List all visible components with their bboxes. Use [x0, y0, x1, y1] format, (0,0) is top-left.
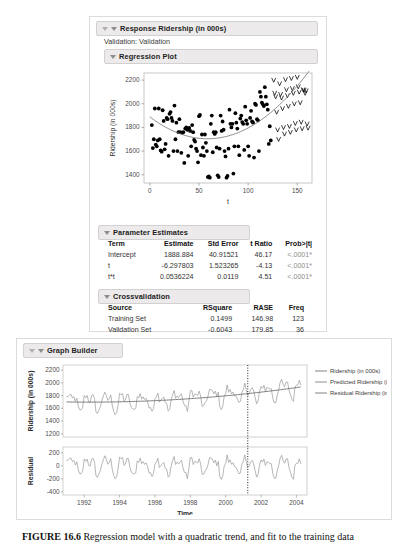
graph-builder-label: Graph Builder — [47, 346, 98, 355]
table-cell: t — [106, 261, 147, 272]
svg-text:Residual Ridership (in 000s): Residual Ridership (in 000s) — [330, 390, 387, 396]
table-cell: 0.0119 — [196, 271, 241, 282]
graph-builder-svg: 120014001600180020002200-400-20002001992… — [21, 359, 387, 515]
parameter-estimates-label: Parameter Estimates — [113, 228, 188, 237]
table-cell: <.0001* — [274, 261, 314, 272]
svg-text:1994: 1994 — [112, 499, 127, 506]
disclosure-triangle-crossvalidation-icon[interactable] — [104, 295, 110, 299]
table-cell: t*t — [106, 271, 147, 282]
svg-text:Time: Time — [177, 510, 193, 515]
svg-text:1996: 1996 — [148, 499, 163, 506]
table-cell: 146.98 — [234, 314, 275, 325]
svg-text:2000: 2000 — [45, 379, 60, 386]
table-header-row: SourceRSquareRASEFreq — [106, 303, 306, 314]
response-section-header[interactable]: Response Ridership (in 000s) — [96, 21, 318, 36]
table-cell: 46.17 — [241, 250, 275, 261]
disclosure-triangle-parameter-estimates-icon[interactable] — [104, 231, 110, 235]
column-header: RSquare — [181, 303, 234, 314]
table-cell: <.0001* — [274, 271, 314, 282]
svg-text:50: 50 — [195, 187, 203, 194]
svg-text:Ridership (in 000s): Ridership (in 000s) — [330, 368, 380, 374]
table-body: Intercept1888.88440.9152146.17<.0001*t-6… — [106, 250, 314, 282]
graph-builder-header[interactable]: Graph Builder — [23, 343, 123, 358]
svg-text:-400: -400 — [47, 488, 60, 495]
crossvalidation-label: Crossvalidation — [113, 292, 170, 301]
table-cell: 0.0536224 — [147, 271, 196, 282]
table-cell: Validation Set — [106, 325, 181, 336]
svg-text:1400: 1400 — [45, 417, 60, 424]
validation-line: Validation: Validation — [104, 37, 170, 46]
gb-series-lines — [67, 365, 301, 495]
disclosure-triangle-regression-plot-icon[interactable] — [110, 55, 116, 59]
table-cell: 179.85 — [234, 325, 275, 336]
parameter-estimates-table: TermEstimateStd Errort RatioProb>|t| Int… — [106, 239, 314, 282]
column-header: Estimate — [147, 239, 196, 250]
table-cell: 1.523265 — [196, 261, 241, 272]
svg-text:1800: 1800 — [45, 392, 60, 399]
svg-text:Predicted Ridership (in 000s): Predicted Ridership (in 000s) — [330, 379, 387, 385]
table-cell: 1888.884 — [147, 250, 196, 261]
disclosure-triangle-response-icon[interactable] — [111, 27, 117, 31]
svg-text:Ridership (in 000s): Ridership (in 000s) — [27, 371, 35, 432]
table-row: Validation Set-0.6043179.8536 — [106, 325, 306, 336]
figure-number: FIGURE 16.6 — [22, 531, 81, 542]
table-row: t*t0.05362240.01194.51<.0001* — [106, 271, 314, 282]
svg-text:1200: 1200 — [45, 430, 60, 437]
parameter-estimates-header[interactable]: Parameter Estimates — [98, 225, 250, 240]
svg-text:Ridership (in 000s): Ridership (in 000s) — [109, 99, 117, 156]
svg-text:2200: 2200 — [45, 366, 60, 373]
regression-plot-label: Regression Plot — [119, 52, 177, 61]
table-row: Training Set0.1499146.98123 — [106, 314, 306, 325]
svg-text:1600: 1600 — [45, 404, 60, 411]
table-row: Intercept1888.88440.9152146.17<.0001* — [106, 250, 314, 261]
svg-text:1998: 1998 — [183, 499, 198, 506]
column-header: t Ratio — [241, 239, 275, 250]
svg-text:2200: 2200 — [125, 76, 140, 83]
svg-text:2000: 2000 — [125, 100, 140, 107]
regression-report-panel: Response Ridership (in 000s) Validation:… — [89, 16, 327, 332]
svg-text:2002: 2002 — [254, 499, 269, 506]
table-body: Training Set0.1499146.98123Validation Se… — [106, 314, 306, 336]
column-header: Freq — [275, 303, 306, 314]
column-header: Term — [106, 239, 147, 250]
table-cell: 40.91521 — [196, 250, 241, 261]
disclosure-triangle-outer-gb-icon[interactable] — [29, 349, 35, 353]
table-cell: -6.297803 — [147, 261, 196, 272]
graph-builder-panel: Graph Builder 120014001600180020002200-4… — [16, 338, 392, 520]
table-cell: -0.6043 — [181, 325, 234, 336]
table-cell: -4.13 — [241, 261, 275, 272]
table-cell: 4.51 — [241, 271, 275, 282]
table-cell: 0.1499 — [181, 314, 234, 325]
disclosure-triangle-outer-icon[interactable] — [102, 27, 108, 31]
scatter-svg: 14001600180020002200050100150tRidership … — [104, 63, 318, 223]
svg-text:1992: 1992 — [77, 499, 92, 506]
table-cell: <.0001* — [274, 250, 314, 261]
svg-text:t: t — [227, 198, 229, 205]
table-cell: Intercept — [106, 250, 147, 261]
column-header: Std Error — [196, 239, 241, 250]
svg-text:1600: 1600 — [125, 147, 140, 154]
svg-text:2004: 2004 — [289, 499, 304, 506]
graph-builder-plot: 120014001600180020002200-400-20002001992… — [21, 359, 387, 515]
crossvalidation-header[interactable]: Crossvalidation — [98, 289, 250, 304]
regression-plot-header[interactable]: Regression Plot — [104, 49, 318, 64]
column-header: Source — [106, 303, 181, 314]
svg-text:-200: -200 — [47, 475, 60, 482]
svg-text:0: 0 — [148, 187, 152, 194]
table-cell: Training Set — [106, 314, 181, 325]
column-header: RASE — [234, 303, 275, 314]
svg-text:Residual: Residual — [27, 457, 34, 485]
crossvalidation-table: SourceRSquareRASEFreq Training Set0.1499… — [106, 303, 306, 335]
svg-text:200: 200 — [49, 449, 60, 456]
response-header-label: Response Ridership (in 000s) — [120, 24, 226, 33]
svg-text:2000: 2000 — [219, 499, 234, 506]
svg-text:0: 0 — [56, 462, 60, 469]
svg-text:150: 150 — [292, 187, 303, 194]
disclosure-triangle-graph-builder-icon[interactable] — [38, 349, 44, 353]
svg-text:1400: 1400 — [125, 171, 140, 178]
table-header-row: TermEstimateStd Errort RatioProb>|t| — [106, 239, 314, 250]
scatter-axes — [142, 73, 313, 186]
table-row: t-6.2978031.523265-4.13<.0001* — [106, 261, 314, 272]
column-header: Prob>|t| — [274, 239, 314, 250]
figure-caption-text: Regression model with a quadratic trend,… — [83, 531, 353, 542]
